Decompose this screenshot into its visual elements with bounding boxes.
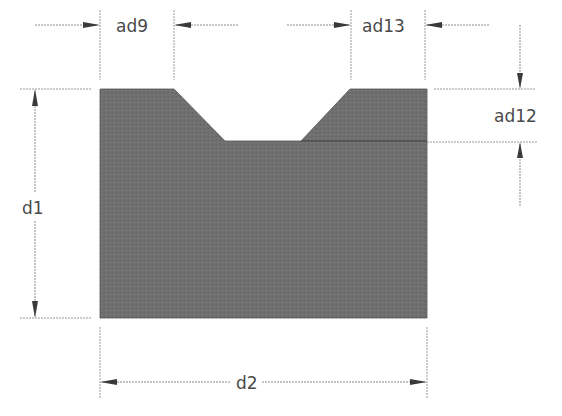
label-ad13: ad13	[362, 16, 405, 36]
dimension-ad9: ad9	[35, 10, 239, 80]
dimension-d1: d1	[20, 89, 92, 318]
label-ad9: ad9	[116, 16, 148, 36]
dimension-d2: d2	[100, 327, 427, 399]
label-d1: d1	[22, 198, 44, 218]
dimension-ad13: ad13	[287, 10, 490, 80]
dimension-drawing: ad9 ad13 ad12 d1 d2	[0, 0, 562, 416]
label-d2: d2	[236, 373, 258, 393]
notched-bar-profile	[100, 89, 427, 318]
label-ad12: ad12	[494, 106, 537, 126]
dimension-ad12: ad12	[427, 25, 537, 207]
